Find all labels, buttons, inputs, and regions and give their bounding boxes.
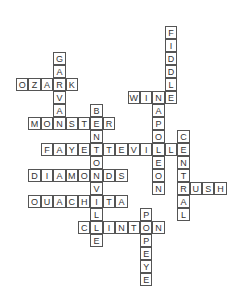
crossword-cell[interactable]: ʹW	[128, 91, 140, 104]
crossword-cell[interactable]: L	[177, 208, 189, 221]
crossword-cell[interactable]: E	[90, 117, 102, 130]
crossword-cell[interactable]: A	[41, 78, 53, 91]
crossword-cell[interactable]: O	[152, 169, 164, 182]
cell-letter: A	[56, 67, 62, 77]
crossword-cell[interactable]: N	[115, 221, 127, 234]
crossword-cell[interactable]: Z	[28, 78, 40, 91]
crossword-cell[interactable]: N	[152, 221, 164, 234]
crossword-cell[interactable]: E	[140, 273, 152, 286]
crossword-cell[interactable]: D	[103, 169, 115, 182]
crossword-cell[interactable]: P	[140, 234, 152, 247]
crossword-cell[interactable]: ʹG	[53, 52, 65, 65]
crossword-cell[interactable]: A	[53, 143, 65, 156]
crossword-cell[interactable]: L	[152, 143, 164, 156]
crossword-cell[interactable]: R	[53, 78, 65, 91]
crossword-cell[interactable]: S	[66, 117, 78, 130]
cell-letter: N	[93, 132, 100, 142]
crossword-cell[interactable]: E	[140, 247, 152, 260]
crossword-cell[interactable]: I	[165, 39, 177, 52]
crossword-cell[interactable]: Y	[66, 143, 78, 156]
cell-letter: C	[69, 197, 76, 207]
crossword-cell[interactable]: O	[140, 221, 152, 234]
crossword-cell[interactable]: O	[41, 117, 53, 130]
crossword-cell[interactable]: S	[202, 182, 214, 195]
crossword-cell[interactable]: I	[103, 221, 115, 234]
cell-letter: Y	[143, 262, 149, 272]
crossword-cell[interactable]: V	[128, 143, 140, 156]
crossword-cell[interactable]: A	[53, 65, 65, 78]
crossword-cell[interactable]: A	[53, 104, 65, 117]
crossword-cell[interactable]: H	[214, 182, 226, 195]
crossword-cell[interactable]: ʹM	[28, 117, 40, 130]
crossword-cell[interactable]: E	[165, 91, 177, 104]
cell-letter: A	[56, 106, 62, 116]
cell-letter: N	[180, 158, 187, 168]
crossword-cell[interactable]: A	[53, 195, 65, 208]
crossword-cell[interactable]: O	[152, 130, 164, 143]
crossword-cell[interactable]: K	[66, 78, 78, 91]
cell-letter: N	[56, 119, 63, 129]
crossword-cell[interactable]: A	[53, 169, 65, 182]
crossword-cell[interactable]: ʹC	[78, 221, 90, 234]
crossword-cell[interactable]: T	[128, 221, 140, 234]
crossword-cell[interactable]: ʹB	[90, 104, 102, 117]
crossword-cell[interactable]: D	[165, 65, 177, 78]
crossword-cell[interactable]: E	[115, 143, 127, 156]
crossword-cell[interactable]: E	[90, 234, 102, 247]
clue-number-mark: ʹ	[55, 51, 56, 56]
crossword-cell[interactable]: R	[103, 117, 115, 130]
crossword-cell[interactable]: Y	[140, 260, 152, 273]
crossword-cell[interactable]: I	[140, 91, 152, 104]
crossword-cell[interactable]: L	[165, 143, 177, 156]
crossword-cell[interactable]: ʹP	[140, 208, 152, 221]
crossword-cell[interactable]: A	[115, 195, 127, 208]
crossword-cell[interactable]: P	[152, 117, 164, 130]
crossword-cell[interactable]: N	[90, 130, 102, 143]
crossword-cell[interactable]: N	[177, 156, 189, 169]
crossword-cell[interactable]: ʹO	[16, 78, 28, 91]
crossword-cell[interactable]: S	[115, 169, 127, 182]
cell-letter: T	[94, 145, 100, 155]
crossword-cell[interactable]: L	[90, 208, 102, 221]
crossword-cell[interactable]: ʹD	[28, 169, 40, 182]
crossword-cell[interactable]: T	[103, 195, 115, 208]
crossword-cell[interactable]: M	[66, 169, 78, 182]
cell-letter: T	[181, 171, 187, 181]
crossword-cell[interactable]: N	[90, 169, 102, 182]
cell-letter: D	[106, 171, 113, 181]
crossword-cell[interactable]: T	[103, 143, 115, 156]
crossword-cell[interactable]: T	[78, 117, 90, 130]
crossword-cell[interactable]: V	[90, 182, 102, 195]
crossword-cell[interactable]: L	[165, 78, 177, 91]
cell-letter: S	[205, 184, 211, 194]
crossword-cell[interactable]: ʹF	[41, 143, 53, 156]
crossword-cell[interactable]: E	[152, 156, 164, 169]
crossword-cell[interactable]: N	[53, 117, 65, 130]
cell-letter: F	[44, 145, 50, 155]
crossword-cell[interactable]: ʹC	[177, 130, 189, 143]
crossword-cell[interactable]: A	[152, 104, 164, 117]
crossword-cell[interactable]: ʹN	[152, 91, 164, 104]
crossword-cell[interactable]: O	[78, 169, 90, 182]
crossword-cell[interactable]: ʹO	[28, 195, 40, 208]
crossword-cell[interactable]: E	[78, 143, 90, 156]
crossword-cell[interactable]: I	[140, 143, 152, 156]
crossword-cell[interactable]: C	[66, 195, 78, 208]
crossword-cell[interactable]: T	[90, 143, 102, 156]
crossword-cell[interactable]: I	[90, 195, 102, 208]
crossword-cell[interactable]: U	[190, 182, 202, 195]
crossword-cell[interactable]: A	[177, 195, 189, 208]
crossword-cell[interactable]: ʹF	[165, 26, 177, 39]
crossword-cell[interactable]: U	[41, 195, 53, 208]
crossword-cell[interactable]: H	[78, 195, 90, 208]
cell-letter: V	[94, 184, 100, 194]
crossword-cell[interactable]: L	[90, 221, 102, 234]
cell-letter: H	[81, 197, 88, 207]
crossword-cell[interactable]: N	[152, 182, 164, 195]
crossword-cell[interactable]: ʹR	[177, 182, 189, 195]
crossword-cell[interactable]: D	[165, 52, 177, 65]
crossword-cell[interactable]: O	[90, 156, 102, 169]
crossword-cell[interactable]: E	[177, 143, 189, 156]
crossword-cell[interactable]: I	[41, 169, 53, 182]
crossword-cell[interactable]: V	[53, 91, 65, 104]
